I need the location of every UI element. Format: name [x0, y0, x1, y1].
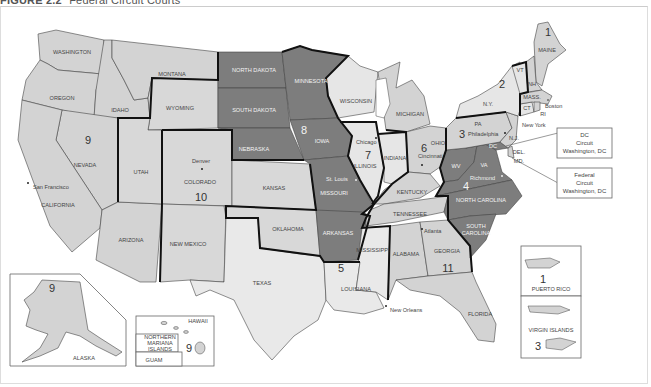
label-pennsylvania: PA	[474, 121, 481, 127]
label-new-york: N.Y.	[483, 101, 494, 107]
label-maryland: MD.	[514, 158, 525, 164]
label-virgin-islands: VIRGIN ISLANDS	[529, 327, 574, 333]
label-north-carolina: NORTH CAROLINA	[456, 197, 506, 203]
label-louisiana: LOUISIANA	[341, 286, 371, 292]
label-maine: MAINE	[538, 47, 556, 53]
label-ohio: OHIO	[431, 140, 446, 146]
label-mississippi: MISSISSIPPI	[356, 247, 390, 253]
label-minnesota: MINNESOTA	[295, 78, 328, 84]
label-florida: FLORIDA	[468, 311, 493, 317]
city-san-francisco: San Francisco	[33, 184, 69, 190]
label-wisconsin: WISCONSIN	[340, 98, 372, 104]
label-delaware: DEL.	[513, 149, 526, 155]
label-missouri: MISSOURI	[320, 190, 348, 196]
label-alabama: ALABAMA	[393, 251, 420, 257]
dc-callout-line-1: DC	[580, 132, 589, 138]
label-north-dakota: NORTH DAKOTA	[232, 67, 276, 73]
virgin-islands-circuit-number: 3	[535, 340, 541, 352]
label-utah: UTAH	[134, 169, 149, 175]
federal-callout-line-1: Federal	[574, 172, 594, 178]
city-philadelphia: Philadelphia	[468, 131, 499, 137]
circuit-number-5: 5	[338, 262, 344, 274]
label-wyoming: WYOMING	[166, 105, 194, 111]
label-hawaii: HAWAII	[188, 318, 208, 324]
label-south-carolina-2: CAROLINA	[462, 230, 491, 236]
label-washington: WASHINGTON	[53, 49, 91, 55]
label-west-virginia: WV	[451, 163, 460, 169]
label-vermont: VT	[516, 67, 524, 73]
label-texas: TEXAS	[253, 280, 272, 286]
state-utah	[118, 118, 162, 204]
puerto-rico-circuit-number: 1	[540, 273, 546, 285]
circuit-number-6: 6	[421, 142, 427, 154]
circuit-number-2: 2	[499, 78, 505, 90]
label-dc: DC	[489, 143, 497, 149]
label-iowa: IOWA	[315, 138, 330, 144]
circuit-number-8: 8	[301, 124, 307, 136]
label-south-dakota: SOUTH DAKOTA	[232, 107, 276, 113]
label-nevada: NEVADA	[74, 162, 97, 168]
circuit-number-3: 3	[459, 128, 465, 140]
label-south-carolina-1: SOUTH	[466, 223, 486, 229]
city-chicago: Chicago	[356, 139, 377, 145]
label-new-mexico: NEW MEXICO	[170, 241, 207, 247]
circuit-number-11: 11	[442, 262, 453, 274]
label-idaho: IDAHO	[111, 107, 129, 113]
federal-callout-line-2: Circuit	[576, 180, 593, 186]
label-kansas: KANSAS	[263, 185, 286, 191]
city-denver: Denver	[192, 158, 210, 164]
state-rhode-island	[534, 102, 540, 112]
label-connecticut: CT	[523, 105, 531, 111]
dc-callout-line-3: Washington, DC	[563, 148, 607, 154]
alaska-circuit-number: 9	[49, 282, 55, 294]
city-atlanta: Atlanta	[424, 228, 442, 234]
label-kentucky: KENTUCKY	[397, 189, 428, 195]
circuit-number-1: 1	[545, 26, 551, 38]
label-indiana: INDIANA	[384, 155, 407, 161]
label-georgia: GEORGIA	[434, 248, 460, 254]
label-new-hampshire: NH	[528, 81, 536, 87]
city-st-louis: St. Louis	[326, 176, 348, 182]
label-arkansas: ARKANSAS	[323, 230, 354, 236]
label-nebraska: NEBRASKA	[239, 146, 270, 152]
label-guam: GUAM	[146, 357, 163, 363]
alaska-inset: 9 ALASKA	[10, 274, 126, 366]
federal-circuits-map: WASHINGTON OREGON IDAHO MONTANA WYOMING …	[0, 0, 651, 387]
label-montana: MONTANA	[158, 71, 186, 77]
label-colorado: COLORADO	[184, 179, 217, 185]
city-new-york: New York	[522, 122, 546, 128]
label-oregon: OREGON	[50, 95, 75, 101]
dc-circuit-callout: DC Circuit Washington, DC	[557, 128, 612, 158]
hawaii-circuit-number: 9	[186, 342, 192, 354]
label-alaska: ALASKA	[73, 355, 95, 361]
city-new-orleans: New Orleans	[390, 307, 423, 313]
label-rhode-island: RI	[540, 111, 546, 117]
label-northern-mariana-3: ISLANDS	[148, 346, 172, 352]
label-arizona: ARIZONA	[119, 237, 144, 243]
label-california: CALIFORNIA	[41, 202, 75, 208]
label-puerto-rico: PUERTO RICO	[532, 286, 571, 292]
city-richmond: Richmond	[470, 175, 495, 181]
label-new-jersey: N.J.	[509, 135, 519, 141]
dc-callout-line-2: Circuit	[576, 140, 593, 146]
label-virginia: VA	[480, 162, 487, 168]
circuit-number-7: 7	[365, 149, 371, 161]
circuit-number-9: 9	[85, 134, 91, 146]
federal-circuit-callout: Federal Circuit Washington, DC	[557, 168, 612, 198]
state-wyoming	[148, 78, 218, 130]
label-oklahoma: OKLAHOMA	[272, 226, 304, 232]
label-illinois: ILLINOIS	[353, 163, 376, 169]
circuit-number-10: 10	[195, 191, 207, 203]
federal-callout-line-3: Washington, DC	[563, 188, 607, 194]
hawaii-inset: HAWAII NORTHERN MARIANA ISLANDS GUAM 9	[136, 316, 214, 366]
label-michigan: MICHIGAN	[396, 111, 424, 117]
circuit-number-4: 4	[463, 180, 469, 192]
label-massachusetts: MASS.	[523, 94, 541, 100]
city-boston: Boston	[545, 103, 562, 109]
label-tennessee: TENNESSEE	[393, 211, 427, 217]
caribbean-inset: 1 PUERTO RICO VIRGIN ISLANDS 3	[521, 246, 581, 358]
